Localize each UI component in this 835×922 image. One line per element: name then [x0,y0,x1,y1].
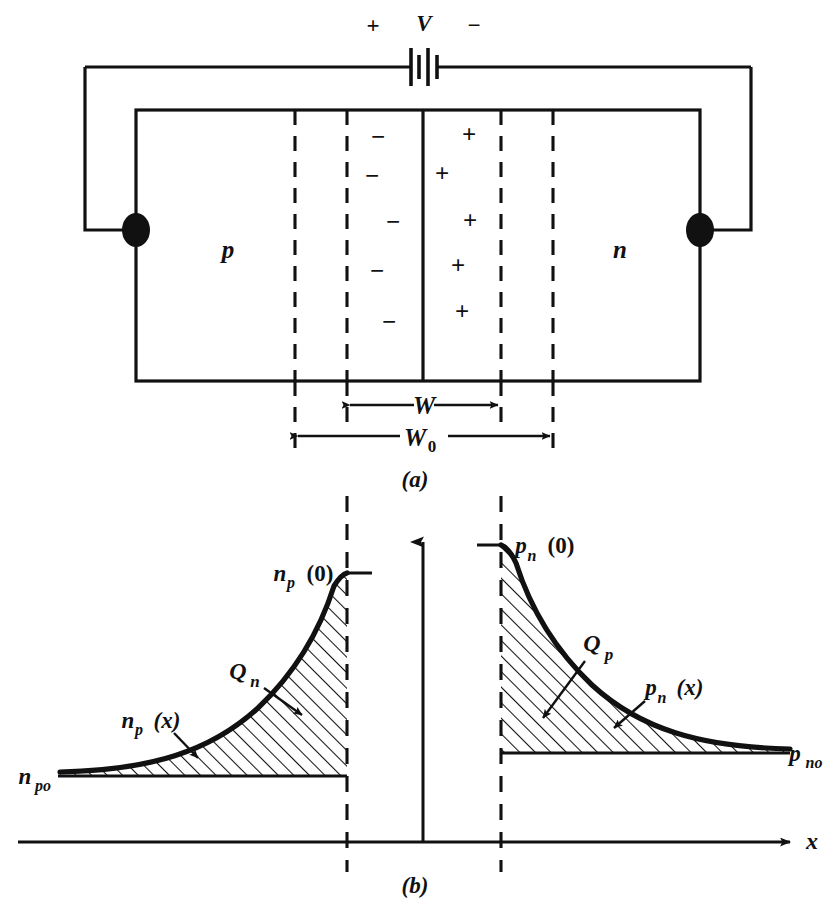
source-minus-label: − [467,13,480,38]
label-Qn-sub: n [250,672,259,691]
dimension-W-label: W [413,392,437,419]
positive-charge-symbol: + [462,121,476,148]
label-np-zero-main: n [274,561,287,586]
label-pn-zero-main: p [513,533,527,558]
dimension-W0-label: W [404,424,428,451]
dimension-W0-subscript: 0 [428,437,437,456]
electron-profile-group: n p (0) n p (x) n po Q n [19,560,372,795]
voltage-source-symbol [85,48,751,86]
label-np-x-main: n [122,708,135,733]
negative-charge-symbol: − [382,308,396,335]
negative-charge-symbol: − [365,162,379,189]
label-np-zero-sub: p [285,574,295,592]
label-pn-x-sub: n [658,689,667,706]
circuit-wires [85,67,751,230]
label-npo: n po [19,764,51,795]
positive-charge-symbol: + [463,207,477,234]
label-pn-x-arg: (x) [677,675,704,700]
negative-charge-symbol: − [370,257,384,284]
wire-left-branch [85,67,136,230]
label-pno: p no [787,741,822,771]
dimension-W: W [350,392,498,419]
positive-charge-symbol: + [435,160,449,187]
label-np-zero: n p (0) [274,561,334,592]
positive-charge-symbol: + [451,252,465,279]
pn-junction-figure: + V − p n − − − − − [0,0,835,922]
panel-a: + V − p n − − − − − [85,11,751,492]
label-np-x-sub: p [133,721,143,739]
label-np-x-arg: (x) [154,708,181,733]
source-voltage-label: V [416,11,433,36]
negative-charge-symbol: − [386,208,400,235]
x-axis-label: x [805,828,818,854]
hole-profile-group: p n (0) p n (x) p no Q p [477,533,822,771]
label-Qp-main: Q [583,630,600,656]
positive-charge-symbol: + [455,298,469,325]
panel-a-caption: (a) [402,467,429,492]
figure-canvas: + V − p n − − − − − [0,0,835,922]
label-np-zero-arg: (0) [307,561,334,586]
label-pn-zero-arg: (0) [548,533,575,558]
label-pn-zero-sub: n [528,547,537,564]
label-npo-sub: po [33,777,51,795]
panel-b: x n p (0) n p (x) [18,496,822,898]
source-plus-label: + [366,13,379,38]
region-label-p: p [220,236,235,263]
region-label-n: n [613,236,627,263]
label-pn-x-main: p [643,675,657,700]
negative-space-charge-group: − − − − − [365,123,400,335]
label-Qn-main: Q [229,658,246,684]
panel-b-caption: (b) [402,873,429,898]
label-pn-zero: p n (0) [513,533,574,564]
wire-right-branch [700,67,751,230]
positive-space-charge-group: + + + + + [435,121,477,325]
charge-area-Qp [495,535,800,760]
charge-area-Qn [55,560,355,785]
negative-charge-symbol: − [371,123,385,150]
label-pno-main: p [787,741,801,766]
label-npo-main: n [19,764,32,789]
label-Qp-sub: p [603,645,614,664]
dimension-W0: W 0 [298,424,550,456]
label-pno-sub: no [806,754,823,771]
